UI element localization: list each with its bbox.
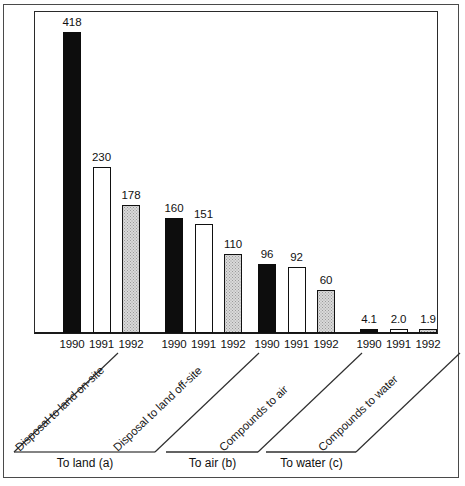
bar-value-label: 60	[306, 274, 346, 286]
bar-compounds-to-water-1990	[360, 329, 378, 333]
bar-compounds-to-water-1991	[390, 329, 408, 333]
bar-chart-figure: 4181990230199117819921601990151199111019…	[0, 0, 465, 486]
bar-disposal-to-land-off-site-1991	[195, 224, 213, 333]
bar-compounds-to-air-1991	[288, 267, 306, 333]
bar-disposal-to-land-on-site-1990	[63, 32, 81, 333]
bar-value-label: 92	[277, 251, 317, 263]
bar-value-label: 1.9	[408, 313, 448, 325]
bars-layer: 4181990230199117819921601990151199111019…	[0, 0, 465, 486]
bar-compounds-to-air-1992	[317, 290, 335, 333]
bar-disposal-to-land-off-site-1990	[165, 218, 183, 333]
bar-value-label: 230	[82, 151, 122, 163]
year-tick-label-1992: 1992	[111, 338, 151, 350]
year-tick-label-1992: 1992	[306, 338, 346, 350]
bar-compounds-to-water-1992	[419, 329, 437, 333]
year-tick-label-1992: 1992	[408, 338, 448, 350]
bar-value-label: 151	[184, 208, 224, 220]
bar-compounds-to-air-1990	[258, 264, 276, 333]
bar-disposal-to-land-on-site-1991	[93, 167, 111, 333]
bar-disposal-to-land-off-site-1992	[224, 254, 242, 333]
bar-disposal-to-land-on-site-1992	[122, 205, 140, 333]
bar-value-label: 178	[111, 189, 151, 201]
bar-value-label: 418	[52, 16, 92, 28]
